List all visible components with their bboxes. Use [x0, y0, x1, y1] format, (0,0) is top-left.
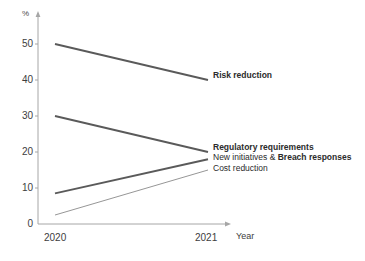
line-chart: % 50 40 30 20 10 0 2020 2021 Year Risk r…: [0, 0, 365, 261]
y-tick-label-30: 30: [11, 110, 33, 121]
x-tick-label-2020: 2020: [44, 232, 66, 243]
chart-plot-area: [0, 0, 365, 261]
x-tick-label-2021: 2021: [195, 232, 217, 243]
y-tick-label-20: 20: [11, 146, 33, 157]
x-axis-title: Year: [236, 231, 254, 241]
series-line-group: [55, 44, 208, 215]
series-line-risk-reduction: [55, 44, 208, 80]
series-label-regulatory-requirements: Regulatory requirements: [213, 142, 314, 152]
series-line-regulatory-requirements: [55, 116, 208, 152]
y-tick-label-10: 10: [11, 182, 33, 193]
series-label-cost-reduction: Cost reduction: [213, 163, 268, 173]
series-label-risk-reduction: Risk reduction: [213, 70, 272, 80]
y-tick-label-50: 50: [11, 38, 33, 49]
y-axis-arrow-icon: [36, 11, 41, 17]
x-axis-arrow-icon: [225, 222, 231, 227]
y-tick-label-0: 0: [11, 218, 33, 229]
series-label-new-initiatives-breach-responses: New initiatives & Breach responses: [213, 152, 351, 162]
y-axis-unit-label: %: [22, 9, 29, 18]
series-label-breach-responses-suffix: Breach responses: [278, 152, 352, 162]
y-tick-label-40: 40: [11, 74, 33, 85]
series-label-new-initiatives-prefix: New initiatives &: [213, 152, 278, 162]
